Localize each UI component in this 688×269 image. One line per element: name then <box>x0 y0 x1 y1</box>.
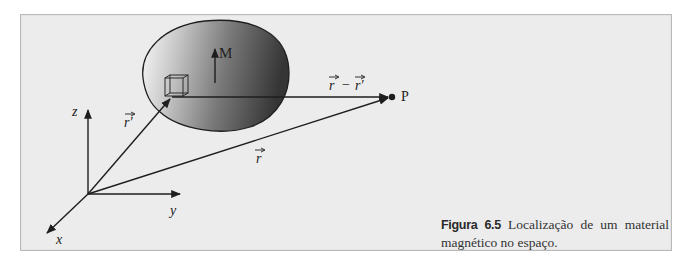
source-position-vector <box>88 99 170 194</box>
point-label: P <box>401 89 409 104</box>
figure-number: Figura 6.5 <box>441 218 501 232</box>
svg-text:−: − <box>342 77 350 92</box>
figure-caption: Figura 6.5 Localização de um material ma… <box>441 216 669 251</box>
svg-text:r: r <box>256 151 262 166</box>
svg-text:r′: r′ <box>355 78 364 93</box>
svg-text:r: r <box>329 78 335 93</box>
z-axis-label: z <box>71 104 78 119</box>
y-axis-label: y <box>168 203 177 218</box>
point-p-dot <box>389 94 395 100</box>
magnetic-body <box>143 20 289 131</box>
x-axis-label: x <box>55 232 63 247</box>
svg-text:r′: r′ <box>124 115 133 130</box>
magnetization-label: M <box>219 45 232 61</box>
difference-vector-label: r − r′ <box>329 75 365 93</box>
field-position-label: r <box>255 148 265 166</box>
source-position-label: r′ <box>124 112 135 130</box>
